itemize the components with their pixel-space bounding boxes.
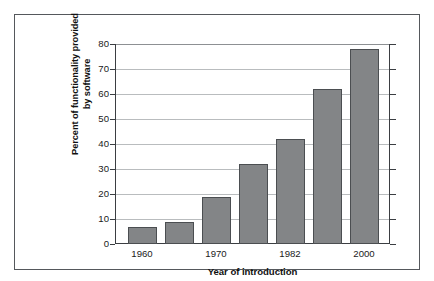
ytick-label-50: 50 [83,113,109,124]
gridline-50 [115,119,390,120]
xtick-label-1970: 1970 [193,248,239,259]
ytick-mark-right-20 [390,194,396,195]
ytick-label-30: 30 [83,163,109,174]
gridline-70 [115,69,390,70]
ytick-mark-right-40 [390,144,396,145]
right-axis-line [389,44,390,244]
ytick-label-60: 60 [83,88,109,99]
gridline-60 [115,94,390,95]
plot-area: 80 70 60 50 40 30 20 [115,44,390,244]
ytick-label-0: 0 [83,238,109,249]
ytick-mark-right-50 [390,119,396,120]
bar-1982 [276,139,305,244]
gridline-40 [115,144,390,145]
y-axis-line [115,44,116,244]
ytick-mark-right-10 [390,219,396,220]
ytick-mark-right-70 [390,69,396,70]
ytick-label-80: 80 [83,38,109,49]
ytick-label-70: 70 [83,63,109,74]
bar-1960 [128,227,157,245]
x-axis-title: Year of introduction [115,266,390,277]
ytick-mark-right-0 [390,244,396,245]
bar-4 [239,164,268,244]
ytick-label-40: 40 [83,138,109,149]
xtick-label-1960: 1960 [119,248,165,259]
ytick-mark-right-30 [390,169,396,170]
ytick-mark-right-80 [390,44,396,45]
ytick-mark-right-60 [390,94,396,95]
bar-2 [165,222,194,245]
xtick-label-2000: 2000 [341,248,387,259]
ytick-label-10: 10 [83,213,109,224]
y-axis-title-line-1: Percent of functionality provided [69,13,81,155]
chart-figure: Percent of functionality provided by sof… [0,0,434,281]
bar-1970 [202,197,231,245]
gridline-80 [115,44,390,45]
ytick-mark-0 [110,244,115,245]
xtick-label-1982: 1982 [267,248,313,259]
bar-2000 [350,49,379,244]
chart-frame-border: Percent of functionality provided by sof… [14,14,420,270]
bar-6 [313,89,342,244]
ytick-label-20: 20 [83,188,109,199]
